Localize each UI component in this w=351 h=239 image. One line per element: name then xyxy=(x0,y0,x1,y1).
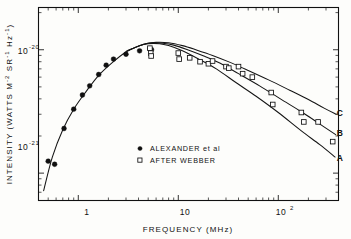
y-axis-title-sup2: -1 xyxy=(4,50,10,58)
y-tick-label-1e-20-exponent: -20 xyxy=(29,44,40,50)
data-point-webber xyxy=(149,54,154,59)
y-axis-title-sup3: -1 xyxy=(4,27,10,35)
legend-marker-open-square xyxy=(138,158,142,162)
y-tick-label-1e-21-exponent: -21 xyxy=(29,140,40,146)
data-point-webber xyxy=(227,66,232,71)
data-point-webber xyxy=(330,139,335,144)
y-tick-label-1e-20: 10 xyxy=(18,46,29,56)
legend: ALEXANDER et al AFTER WEBBER xyxy=(138,144,221,165)
y-axis-title-part1: INTENSITY (WATTS M xyxy=(5,82,14,184)
y-axis-title-sup1: -2 xyxy=(4,74,10,82)
figure-container: CBA 1 10 10 2 10 -20 10 -21 FREQUENCY (M… xyxy=(0,0,351,239)
data-point-webber xyxy=(176,51,181,56)
y-axis-title-part4: ) xyxy=(5,24,14,28)
data-point-alexander xyxy=(46,159,51,164)
curve-label-c: C xyxy=(337,108,344,118)
legend-marker-filled-circle xyxy=(138,146,142,150)
x-tick-label-100-exponent: 2 xyxy=(290,205,294,211)
x-axis-ticks-top xyxy=(39,8,339,14)
data-point-webber xyxy=(240,71,245,76)
x-tick-label-100: 10 xyxy=(276,207,287,217)
legend-label-webber: AFTER WEBBER xyxy=(150,156,216,165)
legend-label-alexander: ALEXANDER et al xyxy=(150,144,220,153)
model-curves-group xyxy=(44,42,337,191)
data-point-alexander xyxy=(80,93,85,98)
y-axis-ticks-left xyxy=(39,13,45,201)
y-tick-label-1e-21: 10 xyxy=(18,142,29,152)
data-point-webber xyxy=(236,64,241,69)
data-point-webber xyxy=(250,75,255,80)
y-axis-title-part3: Hz xyxy=(5,35,14,50)
curve-label-b: B xyxy=(337,128,344,138)
x-tick-label-10: 10 xyxy=(180,207,191,217)
data-point-webber xyxy=(210,59,215,64)
data-point-alexander xyxy=(124,52,129,57)
data-point-webber xyxy=(187,56,192,61)
data-point-webber xyxy=(177,57,182,62)
data-point-alexander xyxy=(111,57,116,62)
y-axis-ticks-right xyxy=(333,13,339,201)
data-point-alexander xyxy=(71,107,76,112)
data-point-alexander xyxy=(87,83,92,88)
model-curve-a xyxy=(44,43,335,190)
x-axis-ticks-bottom xyxy=(39,195,339,201)
y-axis-title: INTENSITY (WATTS M-2 SR-1 Hz-1) xyxy=(4,24,14,185)
data-point-webber xyxy=(302,120,307,125)
data-point-webber xyxy=(148,46,153,51)
data-point-webber xyxy=(269,90,274,95)
data-point-alexander xyxy=(62,126,67,131)
x-tick-label-1: 1 xyxy=(84,207,89,217)
data-point-alexander xyxy=(137,48,142,53)
y-axis-title-part2: SR xyxy=(5,58,14,75)
curve-end-labels: CBA xyxy=(337,108,344,163)
data-point-webber xyxy=(198,59,203,64)
model-curve-c xyxy=(129,42,336,114)
curve-label-a: A xyxy=(337,153,344,163)
data-point-webber xyxy=(270,102,275,107)
spectrum-chart: CBA 1 10 10 2 10 -20 10 -21 FREQUENCY (M… xyxy=(0,0,351,239)
data-point-alexander xyxy=(96,72,101,77)
data-point-alexander xyxy=(52,162,57,167)
x-axis-title: FREQUENCY (MHz) xyxy=(143,225,234,234)
data-point-webber xyxy=(299,110,304,115)
plot-frame xyxy=(39,8,339,201)
data-point-alexander xyxy=(104,63,109,68)
svg-text:INTENSITY (WATTS M-2 SR-1 Hz: INTENSITY (WATTS M-2 SR-1 Hz-1) xyxy=(4,24,14,185)
data-point-webber xyxy=(316,120,321,125)
